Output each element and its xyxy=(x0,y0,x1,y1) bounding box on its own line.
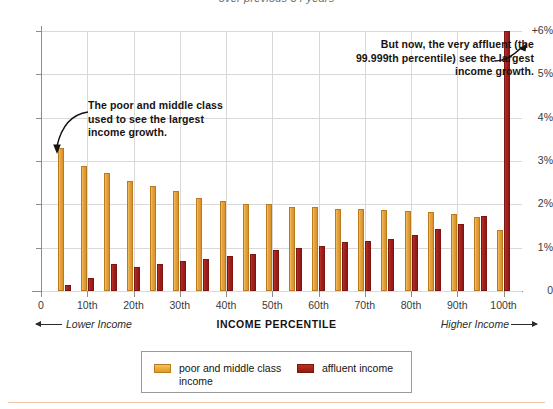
bar-affluent xyxy=(180,261,186,291)
x-tick-label: 100th xyxy=(484,299,524,311)
bar-poor xyxy=(243,204,249,291)
chart-subtitle: over previous 34 years xyxy=(0,0,553,4)
bar-affluent xyxy=(88,278,94,291)
bar-affluent xyxy=(296,248,302,291)
bar-affluent xyxy=(157,264,163,291)
x-tick-mark xyxy=(272,291,273,297)
bar-affluent xyxy=(342,242,348,291)
bar-affluent xyxy=(319,246,325,292)
bar-affluent xyxy=(250,254,256,291)
bar-affluent xyxy=(134,267,140,291)
x-tick-label: 0 xyxy=(21,299,61,311)
legend-label-affluent: affluent income xyxy=(322,362,393,375)
x-tick-label: 30th xyxy=(160,299,200,311)
bar-affluent xyxy=(388,239,394,291)
x-tick-mark xyxy=(319,291,320,297)
x-tick-label: 90th xyxy=(437,299,477,311)
x-tick-label: 60th xyxy=(299,299,339,311)
x-tick-mark xyxy=(87,291,88,297)
bar-poor xyxy=(173,191,179,291)
x-tick-label: 70th xyxy=(345,299,385,311)
chart-canvas: over previous 34 years 01%2%3%4%5%+6% 01… xyxy=(0,0,553,409)
bar-poor xyxy=(358,209,364,291)
x-tick-mark xyxy=(365,291,366,297)
bar-poor xyxy=(196,198,202,291)
bar-affluent xyxy=(111,264,117,291)
bottom-divider xyxy=(8,402,545,403)
bar-poor xyxy=(497,230,503,291)
x-tick-label: 10th xyxy=(67,299,107,311)
bar-poor xyxy=(150,186,156,291)
x-tick-mark xyxy=(411,291,412,297)
bar-affluent xyxy=(227,256,233,291)
bar-poor xyxy=(104,173,110,291)
bar-affluent xyxy=(203,259,209,292)
x-tick-mark xyxy=(457,291,458,297)
gridline-horizontal xyxy=(41,291,522,292)
x-tick-label: 80th xyxy=(391,299,431,311)
bar-poor xyxy=(335,209,341,291)
bar-affluent xyxy=(481,216,487,291)
annotation-right: But now, the very affluent (the 99.999th… xyxy=(338,38,534,79)
x-tick-label: 20th xyxy=(114,299,154,311)
higher-income-arrow-icon xyxy=(511,324,537,325)
x-tick-mark xyxy=(134,291,135,297)
bar-affluent xyxy=(65,285,71,292)
bar-affluent xyxy=(365,241,371,291)
bar-poor xyxy=(81,166,87,291)
bar-affluent xyxy=(412,235,418,291)
x-tick-label: 50th xyxy=(252,299,292,311)
bar-poor xyxy=(266,204,272,291)
x-tick-mark xyxy=(504,291,505,297)
bar-poor xyxy=(381,210,387,291)
bar-poor xyxy=(58,148,64,291)
legend-swatch-affluent-icon xyxy=(297,364,314,373)
bar-poor xyxy=(451,214,457,291)
annotation-left: The poor and middle class used to see th… xyxy=(88,99,238,140)
legend: poor and middle class income affluent in… xyxy=(141,351,412,393)
bar-affluent xyxy=(273,250,279,291)
bar-poor xyxy=(312,207,318,291)
legend-label-poor: poor and middle class income xyxy=(179,362,294,388)
bar-poor xyxy=(474,217,480,291)
bar-poor xyxy=(405,211,411,291)
legend-swatch-poor-icon xyxy=(154,364,171,373)
bar-affluent xyxy=(435,229,441,291)
x-tick-mark xyxy=(226,291,227,297)
bar-poor xyxy=(127,181,133,292)
bar-poor xyxy=(428,212,434,291)
bar-poor xyxy=(220,201,226,291)
bar-poor xyxy=(289,207,295,292)
x-tick-label: 40th xyxy=(206,299,246,311)
caption-higher-income: Higher Income xyxy=(441,318,509,330)
bar-affluent xyxy=(458,224,464,291)
x-tick-mark xyxy=(180,291,181,297)
x-tick-mark xyxy=(41,291,42,297)
